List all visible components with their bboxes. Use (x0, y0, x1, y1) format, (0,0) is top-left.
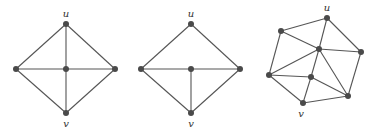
graph-3: uv (266, 2, 364, 119)
edge-left-v (141, 69, 191, 113)
edge-m-v (303, 77, 311, 103)
edge-l-m (269, 75, 311, 77)
node-left (13, 66, 19, 72)
node-right (237, 66, 243, 72)
edge-r-br (348, 52, 361, 96)
node-v (63, 110, 69, 116)
node-tl (278, 28, 284, 34)
edge-u-r (327, 18, 361, 52)
node-center (188, 66, 194, 72)
edge-u-c (319, 18, 327, 49)
edge-l-v (269, 75, 303, 103)
node-center (63, 66, 69, 72)
node-label-u: u (63, 8, 69, 19)
edge-u-right (191, 24, 240, 69)
node-br (345, 93, 351, 99)
graphs-layer: uvuvuv (13, 2, 364, 129)
edge-c-m (311, 49, 319, 77)
edge-u-tl (281, 18, 327, 31)
node-label-v: v (188, 118, 194, 129)
edge-c-l (269, 49, 319, 75)
edge-u-right (66, 24, 115, 69)
node-m (308, 74, 314, 80)
node-l (266, 72, 272, 78)
edge-right-v (191, 69, 240, 113)
edge-c-r (319, 49, 361, 52)
edge-left-v (16, 69, 66, 113)
edge-v-br (303, 96, 348, 103)
graph-1: uv (13, 8, 118, 129)
node-label-u: u (188, 8, 194, 19)
edge-u-left (16, 24, 66, 69)
edge-right-v (66, 69, 115, 113)
node-label-v: v (63, 118, 69, 129)
node-u (63, 21, 69, 27)
node-right (112, 66, 118, 72)
node-c (316, 46, 322, 52)
node-u (324, 15, 330, 21)
edge-tl-c (281, 31, 319, 49)
node-v (188, 110, 194, 116)
edge-u-left (141, 24, 191, 69)
node-v (300, 100, 306, 106)
graph-2: uv (138, 8, 243, 129)
graph-figure: uvuvuv (0, 0, 372, 133)
edge-tl-l (269, 31, 281, 75)
node-label-u: u (324, 2, 330, 13)
node-u (188, 21, 194, 27)
node-label-v: v (298, 108, 304, 119)
node-left (138, 66, 144, 72)
node-r (358, 49, 364, 55)
